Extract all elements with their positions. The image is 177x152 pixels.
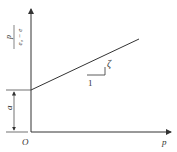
origin-label: O bbox=[22, 137, 29, 147]
y-axis-label: p e₀ − e bbox=[4, 25, 24, 49]
intercept-label: a bbox=[4, 105, 14, 110]
slope-triangle bbox=[87, 67, 105, 75]
diagram-canvas: a 1 ζ O p p e₀ − e bbox=[0, 0, 177, 152]
y-axis-label-numerator: p bbox=[4, 35, 13, 40]
x-axis-label: p bbox=[161, 137, 167, 147]
slope-rise-label: ζ bbox=[107, 58, 112, 70]
y-axis-label-denominator: e₀ − e bbox=[16, 29, 24, 46]
slope-run-label: 1 bbox=[88, 78, 93, 88]
linear-relation-line bbox=[31, 39, 139, 90]
